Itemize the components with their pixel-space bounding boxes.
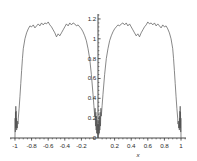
x-tick-label: -0.2 [69,143,93,149]
y-tick-label: 0 [74,135,96,141]
plot-canvas [0,0,197,161]
x-axis-title: x [137,152,140,158]
axes-group [10,14,186,138]
y-tick-label: 0.6 [74,75,96,81]
y-tick-label: 1 [74,36,96,42]
y-tick-label: 1.2 [74,16,96,22]
x-tick-label: 1 [169,143,193,149]
chart-figure: -1-0.8-0.6-0.4-0.20.20.40.60.81 00.20.40… [0,0,197,161]
y-tick-label: 0.8 [74,56,96,62]
y-tick-label: 0.2 [74,115,96,121]
y-tick-label: 0.4 [74,95,96,101]
